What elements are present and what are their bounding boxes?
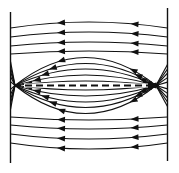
arrowhead-icon [57, 30, 65, 36]
field-line-outer [11, 143, 168, 149]
field-line-diagram [0, 0, 179, 173]
arrowhead-icon [131, 41, 139, 47]
arrowhead-icon [131, 134, 139, 140]
arrowhead-icon [57, 39, 65, 45]
field-line-outer [11, 117, 168, 120]
arrowhead-icon [131, 49, 139, 55]
arrowhead-icon [57, 20, 65, 26]
arrowhead-icon [57, 117, 65, 123]
arrowhead-icon [131, 116, 139, 122]
arrowhead-icon [57, 126, 65, 132]
arrowhead-icon [57, 136, 65, 142]
arrowhead-icon [57, 109, 66, 115]
arrowhead-icon [131, 31, 139, 37]
arrowhead-icon [57, 146, 65, 152]
arrowhead-icon [57, 57, 66, 63]
field-line-outer [11, 32, 168, 37]
field-line-outer [11, 22, 168, 28]
arrowhead-icon [131, 125, 139, 131]
field-line-outer [11, 125, 168, 129]
field-line-outer [11, 134, 168, 139]
arrowhead-icon [57, 48, 65, 54]
field-line-outer [11, 42, 168, 46]
figure [0, 0, 179, 173]
field-line-outer [11, 51, 168, 54]
